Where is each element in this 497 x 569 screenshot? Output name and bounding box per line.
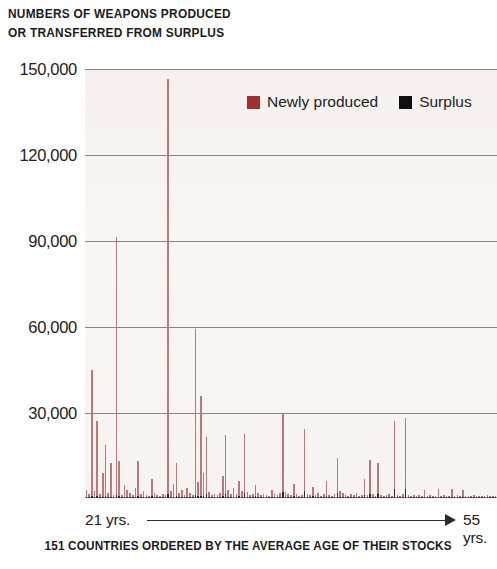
bar-column (416, 496, 418, 498)
bar-segment-surplus (233, 497, 235, 498)
bar-segment-surplus (287, 497, 289, 498)
bar-segment-newly-produced (116, 237, 118, 498)
bar-segment-surplus (323, 497, 325, 498)
bar-segment-surplus (200, 496, 202, 498)
bar-segment-surplus (132, 497, 134, 498)
bar-segment-surplus (495, 497, 497, 498)
bar-column (200, 396, 202, 498)
bar-segment-surplus (146, 497, 148, 498)
bar-segment-surplus (173, 497, 175, 498)
bar-column (156, 495, 158, 498)
bar-segment-surplus (307, 497, 309, 498)
bar-column (186, 488, 188, 498)
bar-segment-surplus (462, 497, 464, 498)
bar-column (350, 494, 352, 498)
bar-column (159, 496, 161, 498)
y-tick-90000: 90,000 (3, 232, 77, 251)
bar-segment-surplus (315, 497, 317, 498)
bar-segment-newly-produced (222, 476, 224, 498)
bar-segment-newly-produced (200, 396, 202, 498)
bar-column (358, 496, 360, 498)
bar-column (386, 495, 388, 498)
bar-column (91, 370, 93, 498)
bar-segment-surplus (413, 497, 415, 498)
bar-column (457, 495, 459, 498)
bar-column (154, 493, 156, 498)
bar-column (287, 494, 289, 498)
bar-column (465, 496, 467, 498)
bar-segment-surplus (339, 497, 341, 498)
bar-segment-surplus (435, 497, 437, 498)
bar-column (94, 491, 96, 498)
bar-column (148, 496, 150, 498)
bar-column (110, 463, 112, 498)
bar-segment-surplus (290, 497, 292, 498)
bar-segment-surplus (386, 497, 388, 498)
bar-column (227, 490, 229, 498)
bar-column (438, 489, 440, 498)
bar-column (364, 479, 366, 498)
chart-title: NUMBERS OF WEAPONS PRODUCED OR TRANSFERR… (8, 4, 231, 42)
bar-column (317, 493, 319, 498)
bar-column (421, 496, 423, 498)
bar-segment-surplus (247, 497, 249, 498)
bar-column (451, 489, 453, 498)
bar-segment-surplus (402, 497, 404, 498)
bar-segment-newly-produced (105, 445, 107, 498)
bar-column (304, 429, 306, 498)
bar-column (225, 435, 227, 498)
bar-segment-newly-produced (394, 421, 396, 498)
bar-column (206, 437, 208, 498)
bar-segment-surplus (446, 497, 448, 498)
bar-column (492, 496, 494, 498)
bar-segment-surplus (140, 497, 142, 498)
bar-segment-newly-produced (337, 458, 339, 498)
bar-column (326, 481, 328, 498)
bar-column (443, 495, 445, 498)
bar-column (435, 496, 437, 498)
bar-segment-surplus (208, 497, 210, 498)
bar-segment-surplus (154, 497, 156, 498)
bar-column (347, 496, 349, 498)
bar-segment-surplus (252, 497, 254, 498)
bar-segment-surplus (391, 497, 393, 498)
bar-column (342, 493, 344, 498)
bar-column (418, 495, 420, 498)
bar-segment-surplus (296, 497, 298, 498)
bar-column (290, 495, 292, 498)
bar-segment-surplus (408, 497, 410, 498)
bar-segment-surplus (421, 497, 423, 498)
bar-segment-surplus (476, 497, 478, 498)
bar-segment-surplus (394, 489, 396, 498)
bar-segment-surplus (424, 497, 426, 498)
bar-column (448, 496, 450, 498)
bar-segment-surplus (470, 497, 472, 498)
bar-segment-surplus (301, 497, 303, 498)
bar-segment-surplus (454, 497, 456, 498)
bar-segment-surplus (487, 497, 489, 498)
bar-segment-surplus (418, 497, 420, 498)
bar-segment-surplus (279, 497, 281, 498)
bar-segment-surplus (334, 497, 336, 498)
bar-column (454, 496, 456, 498)
bar-segment-surplus (277, 497, 279, 498)
bar-column (372, 494, 374, 498)
bar-segment-surplus (328, 497, 330, 498)
legend-swatch-newly-produced-icon (247, 96, 260, 109)
bar-column (236, 494, 238, 498)
bar-column (146, 495, 148, 498)
bar-segment-surplus (451, 497, 453, 498)
bar-segment-surplus (372, 497, 374, 498)
bar-segment-surplus (124, 497, 126, 498)
bar-segment-surplus (285, 497, 287, 498)
bar-column (462, 490, 464, 498)
bar-segment-newly-produced (304, 429, 306, 498)
y-tick-60000: 60,000 (3, 318, 77, 337)
bar-column (337, 458, 339, 498)
bar-column (124, 485, 126, 498)
bar-column (383, 496, 385, 498)
bar-segment-surplus (282, 492, 284, 498)
bar-column (279, 493, 281, 498)
bar-column (277, 495, 279, 498)
bar-segment-surplus (186, 497, 188, 498)
